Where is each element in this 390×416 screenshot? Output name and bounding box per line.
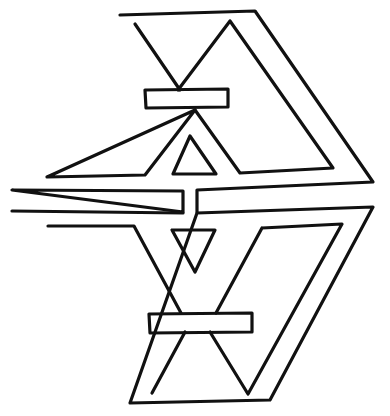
lower-right-triangle — [210, 224, 342, 394]
upper-left-triangle — [47, 24, 195, 177]
upper-crossbar — [145, 89, 228, 108]
upper-small-triangle — [173, 136, 216, 174]
logo-canvas — [0, 0, 390, 416]
lower-crossbar — [149, 313, 252, 333]
lower-outer-trapezoid — [12, 207, 373, 403]
hexagon-monogram-logo — [0, 0, 390, 416]
